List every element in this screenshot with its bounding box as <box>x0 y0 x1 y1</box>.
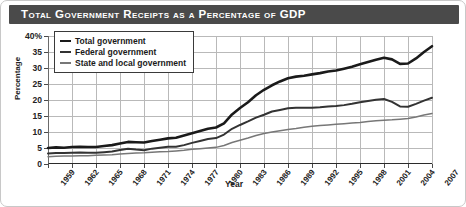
x-tick-mark <box>312 164 313 168</box>
y-tick-label: 20 <box>33 95 42 105</box>
y-tick-label: 40% <box>25 31 42 41</box>
y-tick-label: 35 <box>33 47 42 57</box>
x-tick-mark <box>96 164 97 168</box>
y-tick-label: 10 <box>33 127 42 137</box>
x-tick-mark <box>384 164 385 168</box>
x-axis-title: Year <box>1 179 466 189</box>
x-tick-mark <box>336 164 337 168</box>
x-tick-mark <box>144 164 145 168</box>
x-tick-mark <box>192 164 193 168</box>
x-tick-mark <box>264 164 265 168</box>
legend-item: State and local government <box>60 57 186 68</box>
legend-item-label: Total government <box>75 36 146 46</box>
gridline-vertical <box>432 36 433 164</box>
x-tick-mark <box>72 164 73 168</box>
line-swatch-icon <box>60 62 71 64</box>
page-title: Total Government Receipts as a Percentag… <box>21 5 306 24</box>
chart-legend: Total governmentFederal governmentState … <box>54 31 194 73</box>
y-tick-label: 5 <box>37 143 42 153</box>
line-swatch-icon <box>60 40 71 42</box>
x-tick-mark <box>408 164 409 168</box>
y-tick-label: 30 <box>33 63 42 73</box>
legend-item: Total government <box>60 35 186 46</box>
x-tick-mark <box>120 164 121 168</box>
legend-item-label: State and local government <box>75 58 186 68</box>
chart-figure: Total Government Receipts as a Percentag… <box>0 0 466 207</box>
legend-item: Federal government <box>60 46 186 57</box>
line-swatch-icon <box>60 51 71 53</box>
chart-title-bar: Total Government Receipts as a Percentag… <box>9 5 459 24</box>
y-tick-label: 25 <box>33 79 42 89</box>
y-axis-title: Percentage <box>13 57 22 100</box>
x-tick-mark <box>432 164 433 168</box>
x-tick-mark <box>240 164 241 168</box>
x-tick-mark <box>360 164 361 168</box>
legend-item-label: Federal government <box>75 47 156 57</box>
series-line <box>48 113 432 156</box>
y-tick-label: 15 <box>33 111 42 121</box>
x-tick-mark <box>48 164 49 168</box>
x-tick-mark <box>168 164 169 168</box>
y-tick-label: 0 <box>37 159 42 169</box>
x-tick-mark <box>288 164 289 168</box>
x-tick-mark <box>216 164 217 168</box>
